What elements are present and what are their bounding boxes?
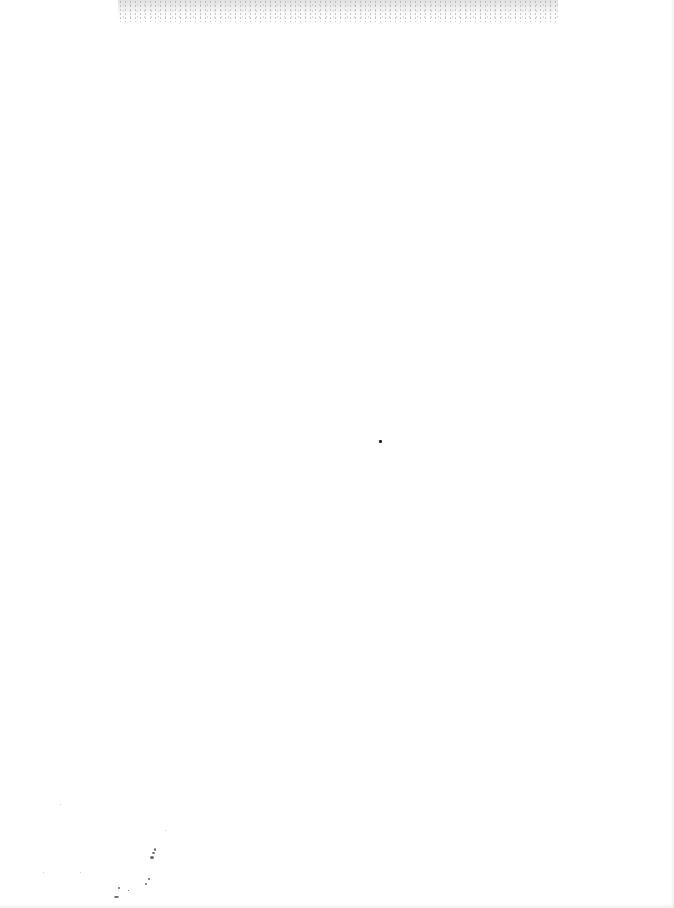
speck	[118, 887, 120, 889]
speck	[154, 848, 156, 851]
speck	[43, 872, 44, 873]
speck	[165, 830, 166, 831]
speck	[145, 883, 147, 885]
scan-dust-dot	[379, 440, 382, 443]
speck	[128, 890, 129, 891]
speck	[150, 856, 154, 859]
speck	[80, 872, 81, 873]
scan-noise-bottom-edge	[0, 904, 674, 908]
speck	[148, 878, 150, 880]
speck	[114, 896, 119, 898]
scan-speckles	[0, 780, 200, 908]
speck	[152, 852, 155, 854]
scan-noise-top-band	[118, 0, 558, 22]
blank-page	[0, 0, 674, 908]
speck	[60, 804, 61, 805]
